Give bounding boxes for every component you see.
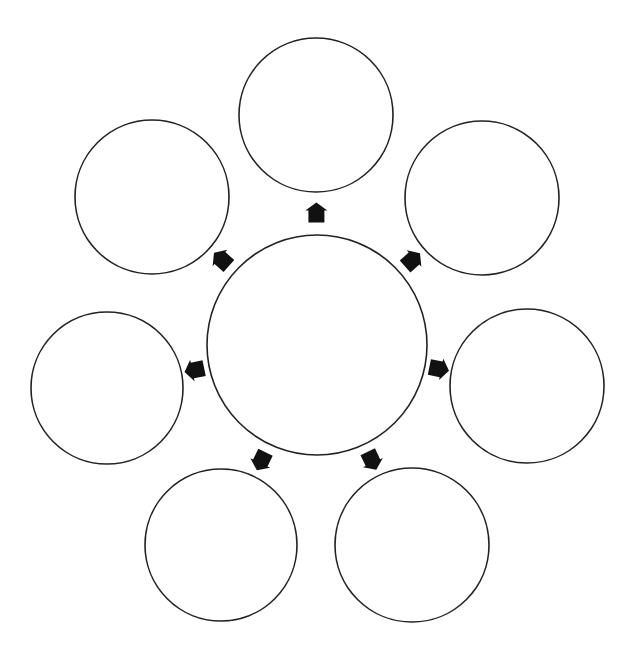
arrow-icon-bottom-left <box>247 447 275 475</box>
outer-circle-bottom-left <box>145 469 297 621</box>
arrow-icon-left <box>182 357 206 383</box>
arrow-icon-right <box>427 356 451 381</box>
hub-spoke-diagram <box>0 0 637 653</box>
outer-circle-bottom-right <box>335 468 489 622</box>
arrow-icon-top-right <box>398 245 428 275</box>
center-circle <box>207 235 427 455</box>
outer-circle-top-left <box>75 120 229 274</box>
outer-circle-left <box>31 312 183 464</box>
arrow-icon-top <box>305 202 327 222</box>
arrow-icon-bottom-right <box>358 447 386 475</box>
outer-circle-top <box>239 38 393 192</box>
outer-circle-right <box>450 309 604 463</box>
arrow-icon-top-left <box>207 244 237 274</box>
outer-circle-top-right <box>405 121 559 275</box>
